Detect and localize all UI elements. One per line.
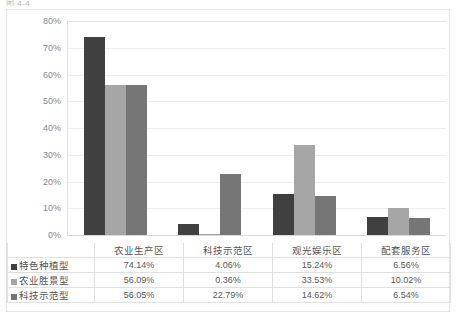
bar[interactable] bbox=[315, 196, 336, 235]
y-axis-tick-label: 10% bbox=[43, 203, 61, 213]
category-label: 观光娱乐区 bbox=[273, 243, 362, 258]
legend-label: 科技示范型 bbox=[19, 290, 69, 301]
bar[interactable] bbox=[178, 224, 199, 235]
bar-group bbox=[163, 21, 258, 235]
bar-group bbox=[352, 21, 447, 235]
y-axis-tick-label: 80% bbox=[43, 16, 61, 26]
legend-swatch-icon bbox=[11, 279, 17, 285]
bar[interactable] bbox=[220, 174, 241, 235]
y-axis-tick-label: 30% bbox=[43, 150, 61, 160]
table-corner-cell bbox=[8, 243, 95, 258]
table-row: 科技示范型56.05%22.79%14.62%6.54% bbox=[8, 288, 451, 303]
bar[interactable] bbox=[84, 37, 105, 235]
plot-region: 80%70%60%50%40%30%20%10%0% bbox=[7, 10, 451, 243]
data-cell: 74.14% bbox=[95, 258, 184, 273]
cropped-caption-fragment: 图 4-4 bbox=[6, 0, 30, 6]
legend-label: 特色种植型 bbox=[19, 260, 69, 271]
bar-group bbox=[68, 21, 163, 235]
legend-swatch-icon bbox=[11, 264, 17, 270]
data-table: 农业生产区科技示范区观光娱乐区配套服务区特色种植型74.14%4.06%15.2… bbox=[7, 243, 451, 303]
category-label: 科技示范区 bbox=[184, 243, 273, 258]
bar[interactable] bbox=[367, 217, 388, 235]
bar[interactable] bbox=[126, 85, 147, 235]
bars-layer bbox=[68, 21, 446, 235]
category-label: 农业生产区 bbox=[95, 243, 184, 258]
data-cell: 10.02% bbox=[362, 273, 451, 288]
data-cell: 33.53% bbox=[273, 273, 362, 288]
data-cell: 56.05% bbox=[95, 288, 184, 303]
bar[interactable] bbox=[388, 208, 409, 235]
data-cell: 14.62% bbox=[273, 288, 362, 303]
legend-entry[interactable]: 特色种植型 bbox=[8, 258, 95, 273]
data-cell: 56.09% bbox=[95, 273, 184, 288]
legend-label: 农业胜景型 bbox=[19, 275, 69, 286]
category-label: 配套服务区 bbox=[362, 243, 451, 258]
category-header-row: 农业生产区科技示范区观光娱乐区配套服务区 bbox=[8, 243, 451, 258]
table-row: 特色种植型74.14%4.06%15.24%6.56% bbox=[8, 258, 451, 273]
y-axis-tick-label: 20% bbox=[43, 177, 61, 187]
data-cell: 0.36% bbox=[184, 273, 273, 288]
bar[interactable] bbox=[294, 145, 315, 235]
y-axis-tick-label: 0% bbox=[48, 230, 61, 240]
bar[interactable] bbox=[409, 218, 430, 235]
y-axis-tick-label: 40% bbox=[43, 123, 61, 133]
legend-swatch-icon bbox=[11, 294, 17, 300]
data-cell: 22.79% bbox=[184, 288, 273, 303]
bar[interactable] bbox=[105, 85, 126, 235]
y-axis-tick-label: 70% bbox=[43, 43, 61, 53]
y-axis: 80%70%60%50%40%30%20%10%0% bbox=[7, 16, 67, 240]
chart-container: 80%70%60%50%40%30%20%10%0% 农业生产区科技示范区观光娱… bbox=[6, 9, 450, 312]
data-cell: 6.54% bbox=[362, 288, 451, 303]
y-axis-tick-label: 50% bbox=[43, 96, 61, 106]
data-cell: 15.24% bbox=[273, 258, 362, 273]
legend-entry[interactable]: 农业胜景型 bbox=[8, 273, 95, 288]
bar[interactable] bbox=[273, 194, 294, 235]
y-axis-tick-label: 60% bbox=[43, 70, 61, 80]
legend-entry[interactable]: 科技示范型 bbox=[8, 288, 95, 303]
bar-group bbox=[257, 21, 352, 235]
bar[interactable] bbox=[199, 234, 220, 235]
data-cell: 4.06% bbox=[184, 258, 273, 273]
data-cell: 6.56% bbox=[362, 258, 451, 273]
plot-area bbox=[67, 21, 446, 236]
table-row: 农业胜景型56.09%0.36%33.53%10.02% bbox=[8, 273, 451, 288]
